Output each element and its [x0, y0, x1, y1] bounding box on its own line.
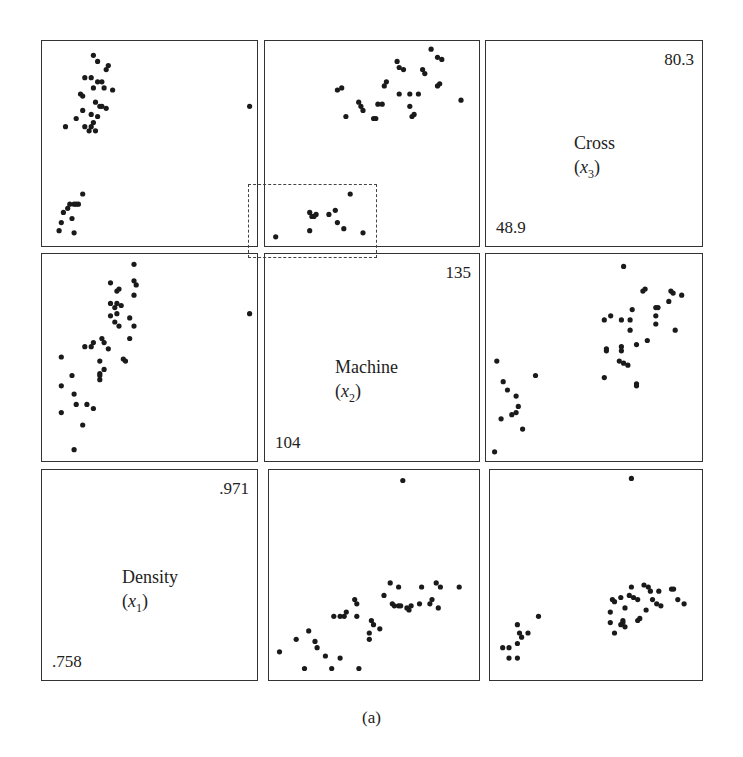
scatter-density-vs-cross	[41, 40, 258, 247]
data-point	[637, 616, 642, 621]
data-point	[655, 305, 660, 310]
density-min-label: .758	[52, 653, 82, 670]
data-point	[515, 656, 520, 661]
data-point	[80, 108, 85, 113]
data-point	[635, 597, 640, 602]
data-point	[429, 597, 434, 602]
data-point	[621, 264, 626, 269]
data-point	[653, 313, 658, 318]
data-point	[112, 319, 117, 324]
data-point	[80, 94, 85, 99]
data-point	[640, 289, 645, 294]
data-point	[89, 344, 94, 349]
data-point	[409, 603, 414, 608]
data-point	[509, 412, 514, 417]
data-point	[608, 620, 613, 625]
data-point	[91, 85, 96, 90]
data-point	[628, 328, 633, 333]
data-point	[102, 340, 107, 345]
data-point	[679, 293, 684, 298]
scatter-plot	[269, 470, 479, 680]
data-point	[119, 303, 124, 308]
data-point	[382, 83, 387, 88]
data-point	[515, 641, 520, 646]
cross-max-label: 80.3	[664, 51, 694, 68]
data-point	[500, 645, 505, 650]
data-point	[398, 603, 403, 608]
data-point	[102, 85, 107, 90]
data-point	[622, 605, 627, 610]
data-point	[612, 630, 617, 635]
data-point	[67, 202, 72, 207]
data-point	[494, 359, 499, 364]
data-point	[371, 622, 376, 627]
variable-name: Machine	[335, 355, 398, 379]
data-point	[412, 112, 417, 117]
data-point	[360, 230, 365, 235]
data-point	[367, 637, 372, 642]
data-point	[401, 67, 406, 72]
machine-min-label: 104	[275, 434, 301, 451]
data-point	[335, 220, 340, 225]
data-point	[658, 603, 663, 608]
data-point	[91, 53, 96, 58]
data-point	[326, 212, 331, 217]
data-point	[99, 79, 104, 84]
data-point	[501, 379, 506, 384]
density-variable-label: Density (x1)	[122, 565, 178, 616]
data-point	[519, 635, 524, 640]
data-point	[134, 282, 139, 287]
data-point	[131, 324, 136, 329]
data-point	[108, 313, 113, 318]
scatter-density-vs-machine	[41, 253, 258, 462]
data-point	[434, 580, 439, 585]
data-point	[407, 104, 412, 109]
data-point	[619, 348, 624, 353]
data-point	[104, 106, 109, 111]
data-point	[87, 128, 92, 133]
data-point	[89, 75, 94, 80]
data-point	[306, 628, 311, 633]
data-point	[93, 100, 98, 105]
data-point	[618, 595, 623, 600]
data-point	[429, 47, 434, 52]
data-point	[671, 587, 676, 592]
data-point	[515, 622, 520, 627]
data-point	[95, 59, 100, 64]
variable-name: Cross	[574, 131, 615, 155]
data-point	[525, 630, 530, 635]
data-point	[395, 59, 400, 64]
data-point	[72, 392, 77, 397]
data-point	[323, 653, 328, 658]
data-point	[533, 373, 538, 378]
data-point	[91, 406, 96, 411]
data-point	[108, 301, 113, 306]
data-point	[294, 637, 299, 642]
data-point	[417, 601, 422, 606]
data-point	[536, 614, 541, 619]
data-point	[516, 404, 521, 409]
data-point	[104, 67, 109, 72]
data-point	[131, 293, 136, 298]
data-point	[59, 354, 64, 359]
data-point	[93, 128, 98, 133]
data-point	[506, 645, 511, 650]
data-point	[407, 91, 412, 96]
data-point	[72, 230, 77, 235]
data-point	[338, 656, 343, 661]
data-point	[80, 422, 85, 427]
data-point	[422, 71, 427, 76]
data-point	[354, 614, 359, 619]
data-point	[634, 383, 639, 388]
data-point	[666, 299, 671, 304]
data-point	[373, 116, 378, 121]
data-point	[400, 478, 405, 483]
data-point	[82, 124, 87, 129]
data-point	[634, 342, 639, 347]
data-point	[61, 210, 66, 215]
data-point	[656, 589, 661, 594]
data-point	[343, 114, 348, 119]
data-point	[314, 212, 319, 217]
data-point	[644, 607, 649, 612]
data-point	[102, 367, 107, 372]
